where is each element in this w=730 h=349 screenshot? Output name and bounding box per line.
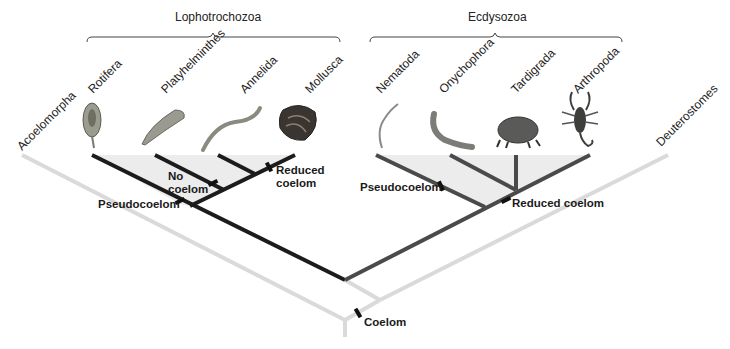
trait-label-reduced-coelom-ecd: Reduced coelom — [512, 197, 604, 210]
trait-label-reduced-coelom-loph: Reduced coelom — [276, 164, 325, 190]
trait-reduced-coelom-loph-line2: coelom — [276, 177, 325, 190]
phylogenetic-tree-diagram: Lophotrochozoa Ecdysozoa Acoelomorpha Ro… — [0, 0, 730, 349]
trait-label-no-coelom: No coelom — [168, 170, 208, 196]
trait-reduced-coelom-loph-line1: Reduced — [276, 164, 325, 177]
rotifer-image — [83, 103, 101, 148]
ecdysozoa-bracket — [370, 33, 622, 42]
trait-label-coelom: Coelom — [364, 316, 406, 329]
group-label-ecdysozoa: Ecdysozoa — [468, 10, 527, 24]
trait-no-coelom-line2: coelom — [168, 183, 208, 196]
roundworm-image — [380, 104, 398, 148]
group-label-lophotrochozoa: Lophotrochozoa — [175, 10, 261, 24]
velvet-worm-image — [433, 114, 472, 147]
trait-label-pseudocoelom-ecd: Pseudocoelom — [360, 181, 442, 194]
flatworm-image — [142, 110, 184, 145]
trait-label-pseudocoelom-loph: Pseudocoelom — [98, 198, 180, 211]
water-bear-image — [497, 117, 540, 148]
scorpion-image — [562, 92, 598, 146]
trait-no-coelom-line1: No — [168, 170, 208, 183]
protostome-stem — [345, 280, 380, 300]
clam-shell-image — [279, 105, 316, 140]
segmented-worm-image — [203, 108, 260, 150]
